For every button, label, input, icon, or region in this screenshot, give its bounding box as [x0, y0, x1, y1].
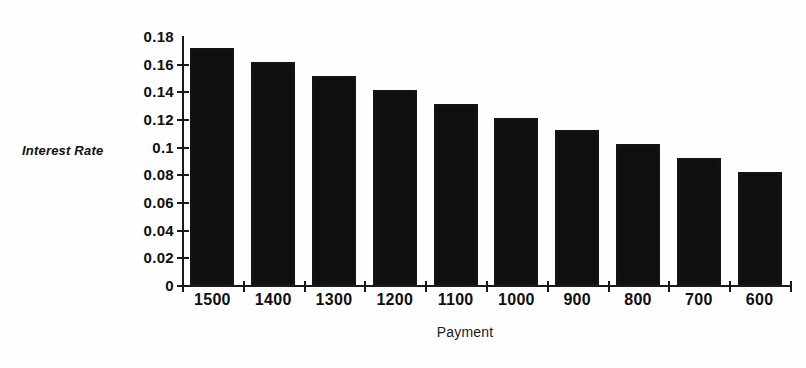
x-axis-tick-label: 1200	[364, 291, 425, 309]
bar	[190, 48, 234, 285]
y-axis-tick-label: 0.16	[96, 55, 174, 72]
bar	[738, 172, 782, 285]
y-axis-tick-label: 0.08	[96, 166, 174, 183]
y-axis-tick-mark	[177, 119, 189, 121]
bar	[616, 144, 660, 285]
y-axis-tick-mark	[177, 147, 189, 149]
x-axis-tick-mark	[790, 281, 792, 292]
y-axis-tick-mark	[177, 64, 189, 66]
x-axis-title-text: Payment	[437, 324, 494, 340]
x-axis-tick-label: 600	[729, 291, 790, 309]
x-axis-tick-label: 1400	[243, 291, 304, 309]
x-axis-tick-label: 1100	[425, 291, 486, 309]
x-axis-tick-label: 1000	[486, 291, 547, 309]
y-axis-tick-label: 0.12	[96, 111, 174, 128]
x-axis-tick-label: 1300	[304, 291, 365, 309]
bar	[677, 158, 721, 285]
bars-layer	[182, 36, 790, 285]
y-axis-tick-mark	[177, 230, 189, 232]
y-axis-tick-label: 0.04	[96, 221, 174, 238]
bar	[312, 76, 356, 285]
y-axis-tick-label: 0.18	[96, 28, 174, 45]
y-axis-tick-label-group: 0.180.160.140.120.10.080.060.040.020	[96, 36, 174, 285]
bar	[555, 130, 599, 285]
x-axis-title: Payment	[0, 324, 806, 340]
y-axis-tick-mark	[177, 257, 189, 259]
y-axis-tick-label: 0	[96, 277, 174, 294]
y-axis-tick-label: 0.02	[96, 249, 174, 266]
y-axis-tick-label: 0.06	[96, 194, 174, 211]
bar-chart-figure: Interest Rate 0.180.160.140.120.10.080.0…	[0, 0, 806, 368]
bar	[373, 90, 417, 285]
plot-area	[182, 36, 790, 285]
x-axis-tick-label-group: 150014001300120011001000900800700600	[182, 291, 790, 315]
x-axis-tick-label: 800	[608, 291, 669, 309]
y-axis-tick-mark	[177, 202, 189, 204]
x-axis-tick-label: 700	[668, 291, 729, 309]
y-axis-tick-mark	[177, 174, 189, 176]
x-axis-tick-label: 1500	[182, 291, 243, 309]
bar	[494, 118, 538, 285]
bar	[251, 62, 295, 285]
y-axis-tick-mark	[177, 91, 189, 93]
y-axis-tick-label: 0.14	[96, 83, 174, 100]
x-axis-tick-label: 900	[547, 291, 608, 309]
y-axis-tick-label: 0.1	[96, 138, 174, 155]
bar	[434, 104, 478, 285]
